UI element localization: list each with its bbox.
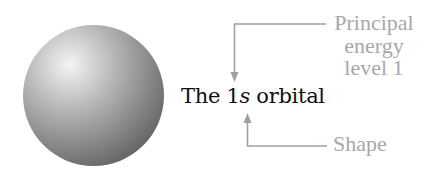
shape-arrow: [244, 113, 328, 146]
annotation-line: energy: [322, 35, 426, 58]
principal-energy-arrow: [231, 24, 327, 82]
shape-annotation: Shape: [333, 133, 387, 156]
annotation-line: level 1: [322, 57, 426, 80]
annotation-line: Principal: [322, 12, 426, 35]
principal-energy-annotation: Principal energy level 1: [322, 12, 426, 80]
orbital-diagram: The 1s orbital Principal energy level 1 …: [0, 0, 435, 170]
